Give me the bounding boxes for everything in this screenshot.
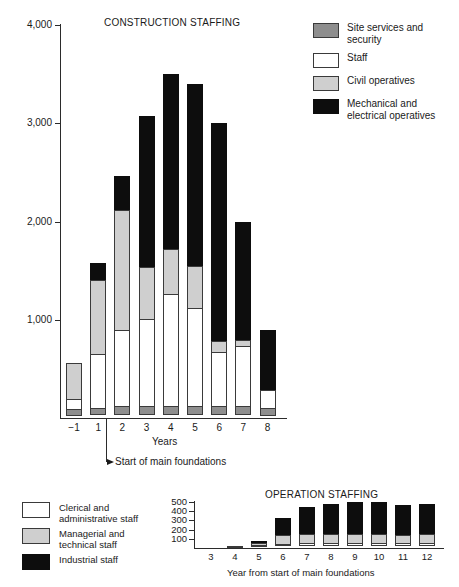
construction-bar [235, 222, 251, 419]
operation-legend-item: Clerical and administrative staff [22, 502, 162, 524]
operation-x-tick-label: 11 [393, 551, 413, 562]
operation-y-tick-label: 200 [160, 525, 187, 535]
construction-bar [260, 330, 276, 418]
construction-staffing-chart: CONSTRUCTION STAFFING 1,0002,0003,0004,0… [0, 0, 459, 480]
operation-bar [227, 546, 243, 548]
construction-segment-civil [114, 210, 130, 331]
construction-y-tick-label-wrap: 1,000 [0, 315, 52, 325]
construction-segment-mech [139, 116, 155, 267]
construction-legend-swatch-staff [313, 53, 339, 68]
construction-bar [114, 176, 130, 418]
operation-segment-industrial [323, 504, 339, 535]
construction-legend-item: Mechanical and electrical operatives [313, 98, 453, 121]
operation-legend-swatch-clerical [22, 502, 50, 518]
operation-x-tick-label: 5 [249, 551, 269, 562]
construction-y-tick-label-wrap: 3,000 [0, 118, 52, 128]
operation-y-tick-label: 500 [160, 497, 187, 507]
construction-legend-swatch-civil [313, 76, 339, 91]
construction-x-axis-line [60, 418, 287, 419]
construction-y-axis-line [60, 24, 61, 419]
operation-bar [251, 541, 267, 548]
construction-segment-site [139, 406, 155, 415]
construction-y-tick-label: 2,000 [0, 217, 52, 227]
construction-segment-mech [235, 222, 251, 341]
construction-segment-civil [66, 363, 82, 400]
operation-segment-industrial [395, 505, 411, 536]
construction-y-tick-label: 3,000 [0, 118, 52, 128]
operation-bar [347, 502, 363, 548]
operation-segment-industrial [371, 502, 387, 535]
operation-chart-title: OPERATION STAFFING [265, 489, 378, 500]
construction-bar [90, 263, 106, 418]
operation-legend-label: Industrial staff [59, 554, 118, 565]
construction-x-tick-label: 4 [160, 422, 182, 433]
construction-segment-staff [260, 390, 276, 408]
operation-legend-label: Managerial and technical staff [59, 528, 125, 550]
construction-segment-staff [235, 346, 251, 407]
operation-y-tick [189, 520, 194, 521]
construction-legend-label: Mechanical and electrical operatives [347, 98, 435, 121]
construction-y-tick [55, 25, 60, 26]
construction-segment-civil [90, 280, 106, 355]
construction-segment-staff [114, 330, 130, 408]
operation-segment-industrial [299, 507, 315, 536]
construction-segment-mech [211, 123, 227, 342]
construction-bar [187, 84, 203, 418]
construction-segment-civil [187, 266, 203, 309]
construction-y-tick [55, 222, 60, 223]
construction-legend-label: Staff [347, 52, 367, 64]
operation-legend-label: Clerical and administrative staff [59, 502, 138, 524]
construction-segment-site [66, 409, 82, 416]
construction-x-tick-label: 7 [232, 422, 254, 433]
operation-x-tick-label: 12 [417, 551, 437, 562]
operation-segment-industrial [347, 502, 363, 535]
operation-legend-item: Managerial and technical staff [22, 528, 162, 550]
foundation-marker-line [106, 419, 107, 462]
construction-segment-staff [90, 354, 106, 409]
construction-x-tick-label: 3 [136, 422, 158, 433]
construction-segment-site [260, 408, 276, 416]
operation-bar [395, 505, 411, 548]
operation-y-tick [189, 539, 194, 540]
operation-x-tick-label: 3 [201, 551, 221, 562]
construction-segment-staff [187, 308, 203, 407]
construction-x-axis-title: Years [152, 436, 177, 447]
construction-y-tick [55, 123, 60, 124]
operation-staffing-chart: OPERATION STAFFING Clerical and administ… [0, 480, 459, 587]
operation-legend-item: Industrial staff [22, 554, 162, 570]
construction-bar [211, 123, 227, 418]
construction-segment-site [90, 408, 106, 415]
operation-y-tick-label: 400 [160, 506, 187, 516]
operation-x-tick-label: 8 [321, 551, 341, 562]
construction-segment-staff [163, 294, 179, 407]
foundation-arrow-icon [107, 459, 114, 465]
construction-segment-mech [163, 74, 179, 250]
construction-bar [163, 74, 179, 418]
operation-legend-swatch-industrial [22, 554, 50, 570]
construction-legend-label: Civil operatives [347, 75, 415, 87]
operation-segment-clerical [275, 544, 291, 546]
operation-x-axis-title: Year from start of main foundations [227, 567, 375, 578]
construction-legend-swatch-mech [313, 99, 339, 114]
operation-y-tick-label: 100 [160, 534, 187, 544]
construction-segment-mech [114, 176, 130, 210]
operation-y-tick-label: 300 [160, 515, 187, 525]
operation-x-tick-label: 6 [273, 551, 293, 562]
construction-segment-staff [211, 352, 227, 407]
construction-x-tick-label: 5 [184, 422, 206, 433]
construction-x-tick-label: 2 [111, 422, 133, 433]
construction-segment-site [163, 406, 179, 415]
construction-segment-site [211, 406, 227, 415]
operation-segment-clerical [395, 543, 411, 546]
operation-y-tick [189, 502, 194, 503]
operation-segment-clerical [251, 545, 267, 547]
operation-bar [275, 518, 291, 548]
construction-legend-item: Site services and security [313, 22, 453, 45]
operation-segment-clerical [347, 543, 363, 546]
operation-segment-clerical [371, 543, 387, 546]
construction-y-tick-label-wrap: 2,000 [0, 217, 52, 227]
construction-y-tick-label: 1,000 [0, 315, 52, 325]
construction-segment-site [235, 406, 251, 415]
construction-bar [139, 116, 155, 418]
construction-x-tick-label: 6 [208, 422, 230, 433]
